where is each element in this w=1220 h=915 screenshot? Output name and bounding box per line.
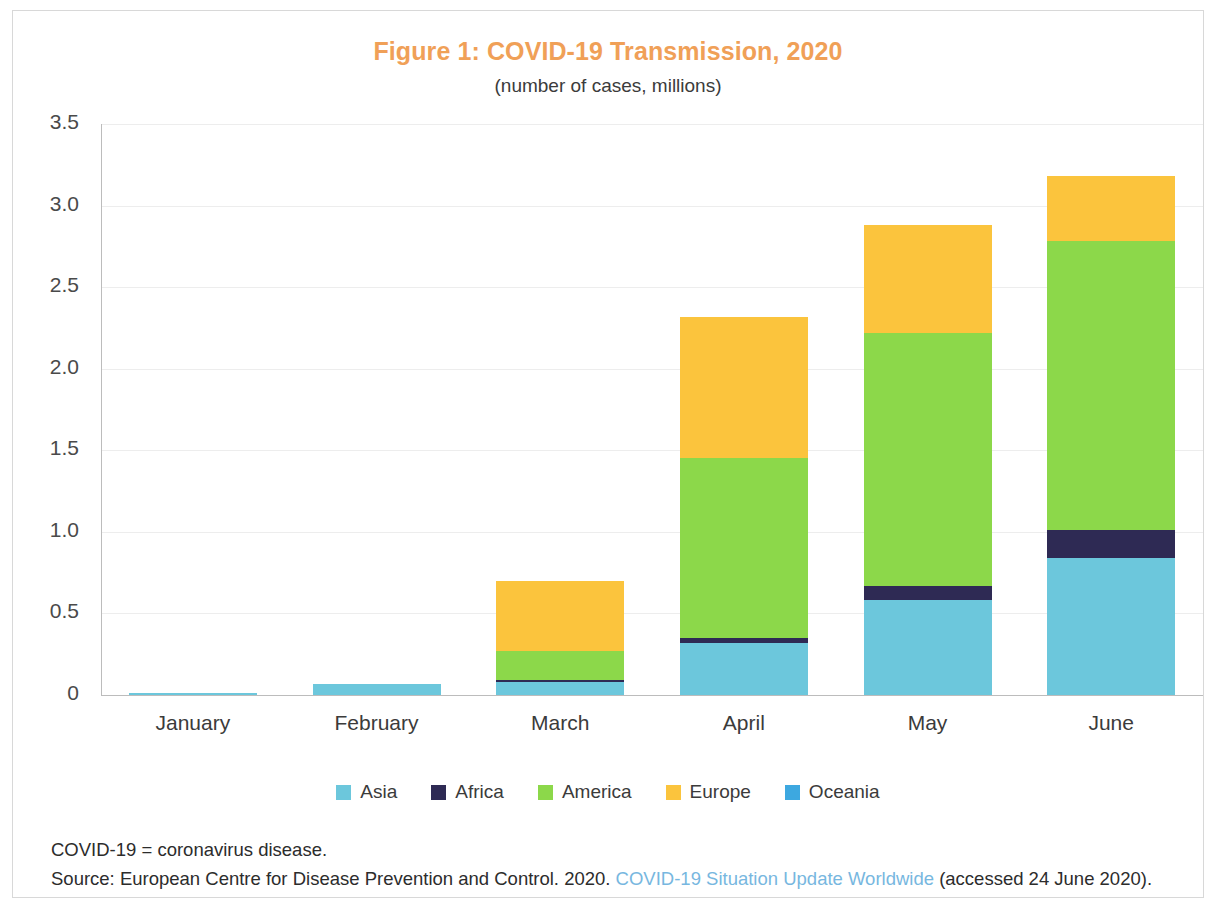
bar-segment-asia[interactable]	[1047, 558, 1175, 695]
y-tick-label-text: 1.0	[50, 518, 79, 542]
bar-group[interactable]	[864, 124, 992, 695]
legend-item-europe[interactable]: Europe	[666, 781, 751, 803]
bar-segment-asia[interactable]	[864, 600, 992, 695]
source-note-suffix: (accessed 24 June 2020).	[939, 868, 1152, 889]
bar-segment-europe[interactable]	[864, 225, 992, 333]
figure-footnotes: COVID-19 = coronavirus disease. Source: …	[51, 836, 1152, 893]
chart-legend: AsiaAfricaAmericaEuropeOceania	[13, 781, 1203, 803]
source-note: Source: European Centre for Disease Prev…	[51, 865, 1152, 894]
bar-group[interactable]	[496, 124, 624, 695]
x-axis-line	[101, 695, 1203, 696]
bar-group[interactable]	[313, 124, 441, 695]
y-tick-label-text: 0	[67, 681, 79, 705]
y-tick-label-text: 0.5	[50, 599, 79, 623]
bar-group[interactable]	[1047, 124, 1175, 695]
x-tick-label: March	[468, 711, 652, 735]
y-tick-label-text: 1.5	[50, 436, 79, 460]
legend-item-america[interactable]: America	[538, 781, 632, 803]
source-link[interactable]: COVID-19 Situation Update Worldwide	[616, 868, 934, 889]
abbreviation-note: COVID-19 = coronavirus disease.	[51, 836, 1152, 865]
y-tick-label-text: 2.5	[50, 273, 79, 297]
legend-swatch-asia	[336, 785, 351, 800]
legend-label: Asia	[360, 781, 397, 803]
bar-segment-europe[interactable]	[496, 581, 624, 651]
legend-swatch-africa	[431, 785, 446, 800]
chart-subtitle: (number of cases, millions)	[13, 75, 1203, 97]
legend-item-asia[interactable]: Asia	[336, 781, 397, 803]
chart-title: Figure 1: COVID-19 Transmission, 2020	[13, 37, 1203, 66]
bar-segment-america[interactable]	[1047, 241, 1175, 530]
x-tick-label: April	[652, 711, 836, 735]
bar-segment-europe[interactable]	[1047, 176, 1175, 241]
bar-segment-asia[interactable]	[313, 684, 441, 695]
legend-swatch-europe	[666, 785, 681, 800]
figure-frame: Figure 1: COVID-19 Transmission, 2020 (n…	[12, 10, 1204, 898]
legend-label: Oceania	[809, 781, 880, 803]
x-tick-label: June	[1019, 711, 1203, 735]
bar-segment-asia[interactable]	[680, 643, 808, 695]
x-tick-label: May	[836, 711, 1020, 735]
y-tick-label-text: 2.0	[50, 355, 79, 379]
legend-item-oceania[interactable]: Oceania	[785, 781, 880, 803]
legend-label: America	[562, 781, 632, 803]
bar-segment-asia[interactable]	[129, 693, 257, 695]
legend-swatch-america	[538, 785, 553, 800]
bar-group[interactable]	[680, 124, 808, 695]
bar-segment-africa[interactable]	[680, 638, 808, 643]
legend-label: Africa	[455, 781, 504, 803]
y-tick-label-text: 3.5	[50, 110, 79, 134]
bar-segment-america[interactable]	[680, 458, 808, 637]
x-tick-label: January	[101, 711, 285, 735]
legend-label: Europe	[690, 781, 751, 803]
bar-segment-asia[interactable]	[496, 682, 624, 695]
bar-group[interactable]	[129, 124, 257, 695]
bar-segment-america[interactable]	[864, 333, 992, 586]
bar-segment-africa[interactable]	[496, 680, 624, 682]
plot-area	[101, 124, 1203, 695]
source-note-prefix: Source: European Centre for Disease Prev…	[51, 868, 610, 889]
y-tick-label-text: 3.0	[50, 192, 79, 216]
x-tick-label: February	[285, 711, 469, 735]
bar-segment-africa[interactable]	[1047, 530, 1175, 558]
legend-item-africa[interactable]: Africa	[431, 781, 504, 803]
bar-segment-africa[interactable]	[864, 586, 992, 601]
legend-swatch-oceania	[785, 785, 800, 800]
bar-segment-america[interactable]	[496, 651, 624, 680]
bar-segment-europe[interactable]	[680, 317, 808, 459]
